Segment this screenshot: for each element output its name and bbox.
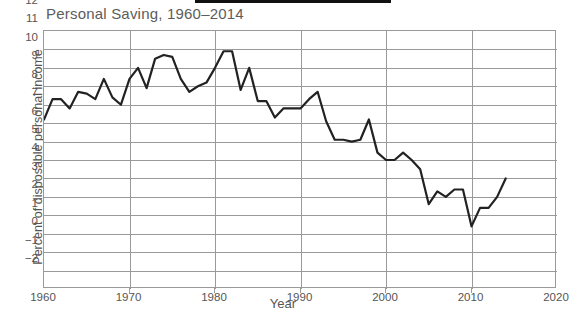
y-tick-label: 8 xyxy=(32,68,38,80)
data-line-series xyxy=(44,31,557,289)
chart-title: Personal Saving, 1960–2014 xyxy=(46,5,244,22)
x-tick-mark xyxy=(471,288,472,293)
x-tick-mark xyxy=(385,288,386,293)
x-tick-mark xyxy=(214,288,215,293)
y-tick-label: 9 xyxy=(32,49,38,61)
personal-saving-line xyxy=(44,51,506,226)
y-axis-ticks: −2−10123456789101112 xyxy=(0,0,43,258)
y-tick-label: −2 xyxy=(25,252,38,264)
y-tick-label: 0 xyxy=(32,215,38,227)
y-tick-label: 2 xyxy=(32,178,38,190)
y-tick-label: 5 xyxy=(32,123,38,135)
x-axis-label: Year xyxy=(0,296,566,311)
x-tick-mark xyxy=(129,288,130,293)
y-tick-label: 11 xyxy=(26,12,38,24)
y-tick-label: 3 xyxy=(32,160,38,172)
x-tick-mark xyxy=(300,288,301,293)
y-tick-label: 10 xyxy=(25,31,38,43)
y-tick-label: 6 xyxy=(32,105,38,117)
y-tick-label: −1 xyxy=(25,234,38,246)
y-tick-label: 12 xyxy=(25,0,38,6)
horizontal-gridlines xyxy=(44,50,557,272)
y-tick-label: 4 xyxy=(32,141,38,153)
y-tick-label: 1 xyxy=(32,197,38,209)
y-tick-label: 7 xyxy=(32,86,38,98)
plot-area xyxy=(43,30,556,288)
title-rule xyxy=(195,0,391,3)
